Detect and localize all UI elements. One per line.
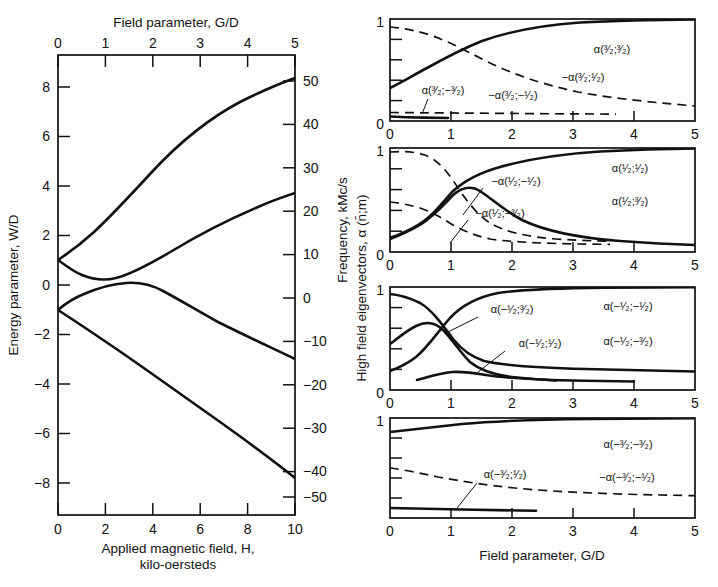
left-right-tick-10: 10: [303, 246, 319, 262]
left-bottom-tick-4: 4: [149, 521, 157, 537]
panel-4-y-top-label: 1: [376, 413, 384, 429]
left-y-tick-0: 0: [42, 277, 50, 293]
left-right-tick-n50: −50: [303, 489, 327, 505]
panel-2-x-tick-5: 5: [691, 257, 699, 273]
panel-2-y-top-label: 1: [376, 143, 384, 159]
curve-alpha-neg3h-1h: [390, 508, 536, 511]
left-top-tick-3: 3: [196, 35, 204, 51]
left-right-axis-title: Frequency, kMc/s: [335, 177, 350, 283]
left-bottom-axis-title-line1: Applied magnetic field, H,: [101, 541, 254, 556]
panel-2-x-tick-2: 2: [508, 257, 516, 273]
panel-2-x-labels: 0 1 2 3 4 5: [386, 257, 699, 273]
panel-4-x-tick-0: 0: [386, 523, 394, 539]
left-top-tick-2: 2: [149, 35, 157, 51]
panel-2-curves: [390, 149, 695, 246]
panel-2-label-alpha-1h-1h: α(¹⁄₂;¹⁄₂): [612, 162, 648, 174]
panel-3-leader-1: [448, 317, 478, 332]
left-y-tick-n6: −6: [34, 425, 50, 441]
curve-alpha-3h-3h: [390, 20, 695, 89]
left-top-tick-1: 1: [102, 35, 110, 51]
left-right-axis-ticks: [283, 81, 295, 497]
panel-1-x-tick-1: 1: [447, 126, 455, 142]
panel-3-x-tick-5: 5: [691, 395, 699, 411]
left-right-tick-n40: −40: [303, 463, 327, 479]
panel-3-label-alpha-neg1h-neg1h: α(−¹⁄₂;−¹⁄₂): [603, 300, 652, 312]
left-right-tick-30: 30: [303, 160, 319, 176]
panel-4-frame: [390, 418, 695, 518]
panel-1-x-tick-3: 3: [569, 126, 577, 142]
left-bottom-ticks: [58, 503, 295, 515]
panel-3-x-tick-4: 4: [630, 395, 638, 411]
panel-4-curves: [390, 418, 695, 511]
left-y-tick-2: 2: [42, 227, 50, 243]
panel-4-x-tick-5: 5: [691, 523, 699, 539]
left-plot-frame: [58, 55, 295, 515]
panel-3-x-labels: 0 1 2 3 4 5: [386, 395, 699, 411]
panel-4-x-tick-4: 4: [630, 523, 638, 539]
panel-3-y-top-label: 1: [376, 282, 384, 298]
panel-1-x-tick-0: 0: [386, 126, 394, 142]
panel-2-label-neg-alpha-1h-neg1h: −α(¹⁄₂;−¹⁄₂): [491, 175, 540, 187]
panel-4-label-alpha-neg3h-neg3h: α(−³⁄₂;−³⁄₂): [603, 438, 652, 450]
left-right-tick-n30: −30: [303, 420, 327, 436]
panel-1-y-bottom-label: 0: [376, 116, 384, 132]
left-y-tick-n4: −4: [34, 376, 50, 392]
right-panels-group: High field eigenvectors, α (n̄;m) 1 0: [354, 14, 699, 563]
panel-2-y-bottom-label: 0: [376, 247, 384, 263]
panel-2-y-ticks: [390, 169, 402, 231]
energy-curve-neg-m-half: [58, 283, 295, 359]
panel-4-x-tick-3: 3: [569, 523, 577, 539]
panel-1-label-alpha-3h-neg3h: α(³⁄₂;−³⁄₂): [422, 84, 465, 96]
panel-1-y-ticks: [390, 39, 402, 100]
left-right-tick-0: 0: [303, 290, 311, 306]
panel-1-x-ticks: [451, 111, 634, 121]
left-right-tick-n10: −10: [303, 333, 327, 349]
panel-3-x-tick-2: 2: [508, 395, 516, 411]
panel-3-x-tick-0: 0: [386, 395, 394, 411]
panel-3: 1 0 α(−¹⁄₂;−¹⁄₂) α(−¹⁄₂;−: [376, 282, 695, 401]
energy-curve-upper: [58, 78, 295, 260]
left-y-tick-8: 8: [42, 79, 50, 95]
panel-2-x-tick-4: 4: [630, 257, 638, 273]
panel-1-label-neg-alpha-3h-neg1h: −α(³⁄₂;−¹⁄₂): [488, 89, 537, 101]
left-y-tick-n8: −8: [34, 475, 50, 491]
left-y-tick-n2: −2: [34, 326, 50, 342]
panel-1-frame: [390, 19, 695, 121]
left-bottom-tick-10: 10: [287, 521, 303, 537]
left-right-tick-20: 20: [303, 203, 319, 219]
left-y-ticks: [58, 87, 70, 483]
figure-svg: 0 1 2 3 4 5 Field parameter, G/D 0 2 4 6…: [0, 0, 718, 587]
left-right-tick-n20: −20: [303, 377, 327, 393]
panel-2-label-neg-alpha-1h-neg3h: −α(¹⁄₂;−³⁄₂): [475, 207, 524, 219]
curve-alpha-neg3h-neg3h: [390, 418, 695, 432]
panel-3-y-bottom-label: 0: [376, 385, 384, 401]
panel-1-y-top-label: 1: [376, 14, 384, 30]
panel-2-frame: [390, 148, 695, 252]
left-top-tick-4: 4: [244, 35, 252, 51]
left-bottom-tick-0: 0: [54, 521, 62, 537]
panel-4-x-tick-2: 2: [508, 523, 516, 539]
left-panel: 0 1 2 3 4 5 Field parameter, G/D 0 2 4 6…: [6, 15, 350, 572]
panel-4: 1 α(−³⁄₂;−³⁄₂) −α(−³⁄₂;−¹⁄₂) α(−³⁄: [376, 413, 699, 563]
panel-4-x-tick-1: 1: [447, 523, 455, 539]
curve-alpha-neg1h-neg3h: [417, 372, 634, 382]
left-y-tick-6: 6: [42, 128, 50, 144]
panel-3-label-alpha-neg1h-1h: α(−¹⁄₂;¹⁄₂): [519, 337, 562, 349]
curve-neg-alpha-3h-neg1h: [390, 113, 616, 115]
panel-1-label-neg-alpha-3h-1h: −α(³⁄₂;¹⁄₂): [562, 71, 605, 83]
panel-1: 1 0 α(³⁄₂;³⁄₂) −α(³⁄₂;¹⁄₂: [376, 14, 695, 132]
left-bottom-tick-2: 2: [102, 521, 110, 537]
panel-1-label-alpha-3h-3h: α(³⁄₂;³⁄₂): [594, 43, 630, 55]
curve-alpha-3h-neg3h: [390, 117, 448, 119]
panel-3-label-alpha-neg1h-neg3h: α(−¹⁄₂;−³⁄₂): [603, 335, 652, 347]
panel-1-x-labels: 0 1 2 3 4 5: [386, 126, 699, 142]
panel-2-x-tick-0: 0: [386, 257, 394, 273]
panel-2-x-tick-3: 3: [569, 257, 577, 273]
panel-2-x-tick-1: 1: [447, 257, 455, 273]
left-right-tick-40: 40: [303, 116, 319, 132]
left-y-tick-4: 4: [42, 178, 50, 194]
left-bottom-axis-title-line2: kilo-oersteds: [140, 557, 217, 572]
left-plot-curves: [58, 78, 295, 478]
panel-4-label-neg-alpha-neg3h-neg1h: −α(−³⁄₂;−¹⁄₂): [599, 471, 655, 483]
left-bottom-tick-8: 8: [244, 521, 252, 537]
